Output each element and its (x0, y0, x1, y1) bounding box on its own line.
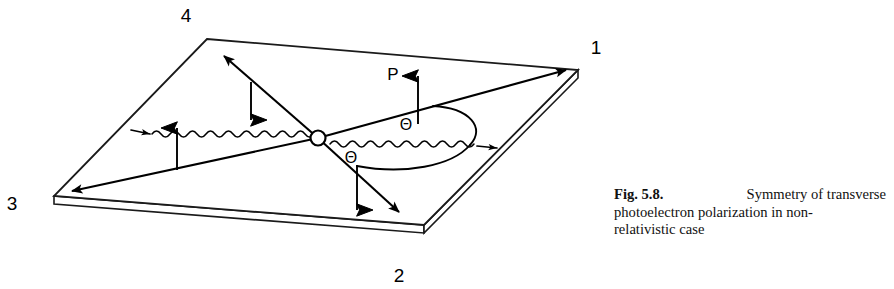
quadrant-label-4: 4 (181, 5, 192, 26)
angle-label-theta-lower: Θ (345, 149, 357, 166)
quadrant-label-1: 1 (591, 37, 602, 58)
caption-line-2: photoelectron polarization in non- (614, 204, 886, 222)
quadrant-label-3: 3 (7, 193, 18, 214)
figure-caption: Fig. 5.8. Symmetry of transverse photoel… (614, 186, 886, 239)
angle-label-theta-upper: Θ (400, 116, 412, 133)
caption-line-3: relativistic case (614, 221, 886, 239)
figure-container: 4 1 3 2 P Θ Θ Fig. 5.8. Symmetry of tran… (0, 0, 894, 289)
caption-line-1-text: Symmetry of transverse (747, 186, 886, 204)
polarization-label-P: P (387, 65, 398, 84)
caption-line-1: Fig. 5.8. Symmetry of transverse (614, 186, 886, 204)
caption-figure-number: Fig. 5.8. (614, 186, 663, 204)
quadrant-label-2: 2 (394, 265, 405, 286)
interaction-vertex (311, 131, 326, 146)
physics-diagram: 4 1 3 2 P Θ Θ (0, 0, 620, 289)
